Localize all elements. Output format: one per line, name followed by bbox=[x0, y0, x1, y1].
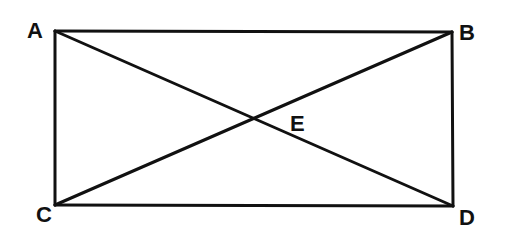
label-c: C bbox=[36, 202, 52, 227]
segment-dc bbox=[55, 205, 453, 206]
label-e: E bbox=[290, 111, 305, 136]
label-b: B bbox=[459, 20, 475, 45]
segment-ab bbox=[55, 31, 452, 32]
label-d: D bbox=[459, 205, 475, 230]
segments bbox=[55, 31, 453, 206]
segment-bd bbox=[452, 32, 453, 206]
rectangle-diagram: A B C D E bbox=[0, 0, 505, 244]
label-a: A bbox=[27, 18, 43, 43]
